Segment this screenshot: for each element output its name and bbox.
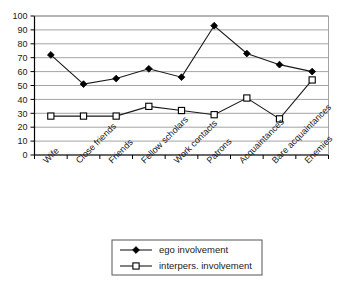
data-point-marker-square (244, 95, 250, 101)
y-axis-tick-label: 20 (17, 122, 27, 132)
data-point-marker-square (133, 263, 139, 269)
y-axis-tick-label: 80 (17, 39, 27, 49)
y-axis-tick-label: 100 (12, 11, 27, 21)
y-axis-tick-label: 10 (17, 136, 27, 146)
legend-label: interpers. involvement (159, 260, 252, 271)
data-point-marker-square (48, 113, 54, 119)
y-axis-tick-label: 50 (17, 81, 27, 91)
data-point-marker-square (146, 103, 152, 109)
data-point-marker-square (113, 113, 119, 119)
y-axis-tick-label: 40 (17, 95, 27, 105)
data-point-marker-square (211, 112, 217, 118)
y-axis-tick-label: 0 (22, 150, 27, 160)
data-point-marker-square (309, 77, 315, 83)
chart-legend: ego involvementinterpers. involvement (112, 240, 262, 275)
y-axis-tick-label: 70 (17, 53, 27, 63)
legend-label: ego involvement (159, 244, 229, 255)
y-axis-tick-label: 30 (17, 109, 27, 119)
data-point-marker-square (178, 107, 184, 113)
chart-canvas: 0102030405060708090100 WifeClose friends… (0, 0, 346, 285)
y-axis-tick-label: 60 (17, 67, 27, 77)
line-chart: 0102030405060708090100 WifeClose friends… (0, 0, 346, 285)
y-axis-tick-label: 90 (17, 25, 27, 35)
data-point-marker-square (80, 113, 86, 119)
